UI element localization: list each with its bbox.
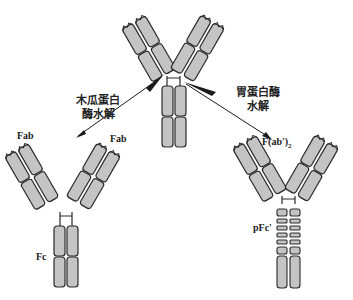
top-right-arm	[170, 14, 225, 82]
top-fc-stem	[162, 86, 186, 147]
fab2-text: F(ab')	[262, 136, 288, 147]
fab2-label: F(ab')2	[262, 136, 292, 150]
fab-left-fragment	[4, 142, 59, 210]
papain-hydrolysis-label: 木瓜蛋白 酶水解	[76, 94, 120, 122]
pepsin-label-line2: 水解	[236, 100, 280, 114]
fab-right-label: Fab	[110, 133, 127, 144]
pfc-fragments	[277, 209, 300, 288]
intact-antibody	[121, 14, 225, 147]
pfc-label: pFc'	[253, 222, 272, 233]
papain-label-line1: 木瓜蛋白	[76, 94, 120, 108]
pepsin-hydrolysis-label: 胃蛋白酶 水解	[236, 86, 280, 114]
top-left-arm	[121, 14, 176, 82]
pepsin-products	[232, 134, 339, 288]
fc-fragment	[54, 226, 78, 287]
papain-products	[4, 142, 121, 287]
antibody-hydrolysis-diagram	[0, 0, 353, 300]
fc-label: Fc	[36, 251, 47, 262]
fab-right-fragment	[66, 142, 121, 210]
hinge-disulfide	[167, 76, 180, 86]
fc-hinge	[60, 212, 72, 226]
pepsin-label-line1: 胃蛋白酶	[236, 86, 280, 100]
fab-left-label: Fab	[17, 130, 34, 141]
fab2-hinge	[282, 196, 295, 204]
papain-label-line2: 酶水解	[76, 108, 120, 122]
fab2-subscript: 2	[288, 142, 292, 150]
fab2-right-arm	[284, 134, 339, 202]
